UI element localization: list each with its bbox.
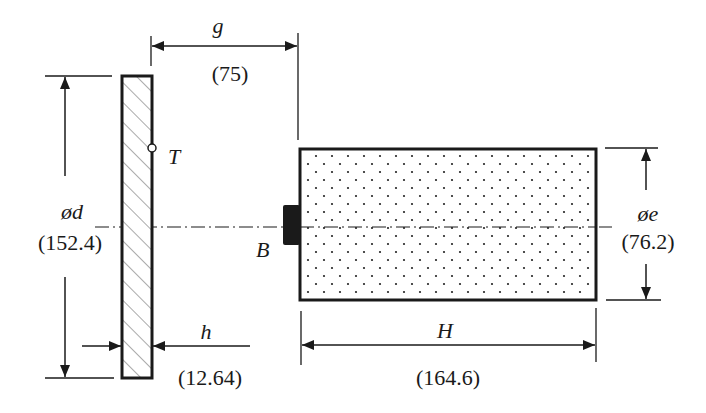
thermocouple-marker-icon: [148, 144, 156, 152]
dimension-d-symbol: ød: [60, 199, 84, 224]
block-label-b: B: [256, 237, 269, 262]
marker-label-t: T: [168, 144, 182, 169]
block-b: [283, 205, 300, 245]
dimension-e-value: (76.2): [621, 229, 674, 254]
dimension-h-value: (12.64): [178, 365, 242, 390]
cylinder: [300, 149, 596, 300]
dimension-e-symbol: øe: [637, 201, 659, 226]
dimension-h-symbol: h: [201, 319, 212, 344]
dimension-H-symbol: H: [436, 318, 454, 343]
plate: [122, 76, 152, 378]
dimension-H-value: (164.6): [416, 365, 480, 390]
dimension-g-value: (75): [212, 61, 249, 86]
dimension-g: [151, 33, 298, 140]
dimension-g-symbol: g: [213, 13, 224, 38]
diagram-canvas: T B g (75) ød (152.4) øe (76.2) h (12.6: [0, 0, 706, 413]
dimension-d-value: (152.4): [38, 230, 102, 255]
